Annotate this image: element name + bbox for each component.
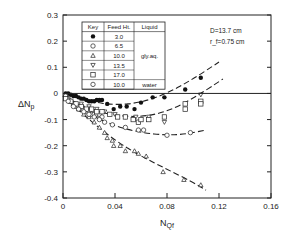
legend-marker-icon bbox=[91, 82, 95, 86]
x-tick-label: 0.04 bbox=[107, 202, 123, 211]
data-point bbox=[97, 117, 101, 121]
data-point bbox=[102, 120, 106, 124]
data-point bbox=[123, 125, 127, 129]
y-tick-label: 0 bbox=[54, 89, 59, 98]
data-point bbox=[100, 98, 104, 102]
data-point bbox=[131, 117, 135, 121]
data-point bbox=[161, 170, 165, 174]
x-tick-label: 0 bbox=[61, 202, 66, 211]
annotations: D=13.7 cm r_f=0.75 cm bbox=[210, 27, 245, 46]
data-point bbox=[112, 144, 116, 148]
data-point bbox=[162, 95, 166, 99]
y-tick-label: -0.4 bbox=[44, 194, 58, 203]
y-tick-label: -0.2 bbox=[44, 142, 58, 151]
data-point bbox=[123, 149, 127, 153]
legend-feed-ht: 10.0 bbox=[113, 82, 125, 88]
annotation-diameter: D=13.7 cm bbox=[210, 27, 242, 34]
legend-header: Liquid bbox=[141, 24, 157, 30]
legend-feed-ht: 10.0 bbox=[113, 53, 125, 59]
y-axis-title: ΔNp bbox=[18, 99, 35, 111]
data-point bbox=[76, 107, 80, 111]
data-point bbox=[183, 102, 187, 106]
data-point bbox=[71, 104, 75, 108]
data-point bbox=[199, 102, 203, 106]
data-point bbox=[105, 102, 109, 106]
y-tick-label: -0.3 bbox=[44, 168, 58, 177]
legend-header: Feed Ht. bbox=[107, 24, 130, 30]
data-point bbox=[151, 95, 155, 99]
data-point bbox=[162, 120, 166, 124]
data-point bbox=[123, 115, 127, 119]
x-tick-label: 0.08 bbox=[159, 202, 175, 211]
data-point bbox=[118, 104, 122, 108]
data-point bbox=[183, 107, 187, 111]
data-point bbox=[92, 115, 96, 119]
data-point bbox=[132, 107, 136, 111]
x-tick-label: 0.12 bbox=[211, 202, 227, 211]
data-point bbox=[188, 130, 192, 134]
annotation-feed-radius: r_f=0.75 cm bbox=[210, 38, 245, 46]
data-point bbox=[105, 136, 109, 140]
data-point bbox=[144, 154, 148, 158]
data-point bbox=[87, 112, 91, 116]
legend-feed-ht: 13.5 bbox=[113, 63, 125, 69]
legend-marker-icon bbox=[91, 73, 95, 77]
x-tick-label: 0.16 bbox=[263, 202, 279, 211]
data-point bbox=[139, 117, 143, 121]
legend-marker-icon bbox=[91, 44, 95, 48]
data-point bbox=[102, 130, 106, 134]
legend-liquid: water bbox=[141, 82, 157, 88]
data-point bbox=[108, 112, 112, 116]
data-point bbox=[89, 107, 93, 111]
data-point bbox=[115, 115, 119, 119]
legend-feed-ht: 3.0 bbox=[115, 34, 124, 40]
data-point bbox=[183, 87, 187, 91]
x-axis-title: NQf bbox=[160, 218, 174, 230]
y-tick-label: 0.3 bbox=[47, 11, 59, 20]
data-point bbox=[132, 149, 136, 153]
legend-feed-ht: 17.0 bbox=[113, 72, 125, 78]
data-point bbox=[139, 100, 143, 104]
data-point bbox=[112, 107, 116, 111]
data-point bbox=[125, 104, 129, 108]
legend-liquid: gly.aq. bbox=[141, 53, 159, 59]
data-point bbox=[147, 117, 151, 121]
chart-canvas: 0.30.20.10-0.1-0.2-0.3-0.400.040.080.120… bbox=[0, 0, 287, 237]
legend-marker-icon bbox=[91, 34, 95, 38]
y-tick-label: 0.2 bbox=[47, 37, 59, 46]
data-point bbox=[165, 133, 169, 137]
data-point bbox=[162, 115, 166, 119]
data-point bbox=[110, 123, 114, 127]
data-point bbox=[199, 76, 203, 80]
data-point bbox=[95, 110, 99, 114]
y-tick-label: 0.1 bbox=[47, 63, 59, 72]
series-5 bbox=[66, 99, 193, 137]
data-point bbox=[82, 110, 86, 114]
data-point bbox=[66, 99, 70, 103]
y-tick-label: -0.1 bbox=[44, 116, 58, 125]
legend-feed-ht: 6.5 bbox=[115, 43, 124, 49]
data-point bbox=[100, 110, 104, 114]
data-point bbox=[199, 183, 203, 187]
data-point bbox=[141, 128, 145, 132]
legend-table: KeyFeed Ht.Liquid3.06.510.013.517.010.0g… bbox=[82, 22, 165, 89]
data-point bbox=[136, 128, 140, 132]
legend-header: Key bbox=[88, 24, 98, 30]
